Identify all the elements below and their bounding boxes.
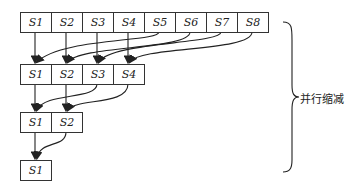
cell: S1: [20, 64, 52, 85]
cell: S3: [82, 12, 114, 33]
cell: S7: [206, 12, 238, 33]
row-level-1: S1 S2 S3 S4 S5 S6 S7 S8: [20, 12, 269, 33]
row-level-3: S1 S2: [20, 112, 83, 133]
cell: S4: [113, 12, 145, 33]
cell: S6: [175, 12, 207, 33]
row-level-4: S1: [20, 160, 52, 181]
cell: S2: [51, 12, 83, 33]
cell: S3: [82, 64, 114, 85]
cell: S8: [237, 12, 269, 33]
row-level-2: S1 S2 S3 S4: [20, 64, 145, 85]
cell: S1: [20, 160, 52, 181]
cell: S1: [20, 12, 52, 33]
cell: S2: [51, 64, 83, 85]
cell: S2: [51, 112, 83, 133]
cell: S5: [144, 12, 176, 33]
brace: [283, 22, 299, 172]
cell: S4: [113, 64, 145, 85]
cell: S1: [20, 112, 52, 133]
brace-label: 并行缩减: [300, 90, 344, 106]
